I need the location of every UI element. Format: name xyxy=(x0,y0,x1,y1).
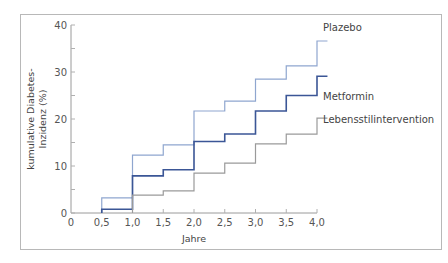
x-tick-label: 0,5 xyxy=(94,217,110,228)
y-tick-label: 10 xyxy=(54,161,67,172)
series-labels: PlazeboMetforminLebensstilintervention xyxy=(323,22,434,125)
series-lines xyxy=(102,41,328,213)
y-tick-label: 40 xyxy=(54,20,67,31)
x-tick-label: 2,5 xyxy=(217,217,233,228)
series-line-plazebo xyxy=(102,41,328,213)
y-axis-title: kumulative Diabetes- Inzidenz (%) xyxy=(25,68,48,169)
series-line-metformin xyxy=(102,76,328,213)
y-tick-label: 30 xyxy=(54,67,67,78)
x-tick-label: 1,0 xyxy=(125,217,141,228)
y-tick-label: 20 xyxy=(54,114,67,125)
x-tick-label: 2,0 xyxy=(186,217,202,228)
x-tick-label: 1,5 xyxy=(155,217,171,228)
step-chart: 01020304000,51,01,52,02,53,03,54,0 Plaze… xyxy=(0,0,448,263)
y-axis-title-line-1: kumulative Diabetes- xyxy=(25,68,36,169)
axes: 01020304000,51,01,52,02,53,03,54,0 xyxy=(54,20,325,229)
series-label-plazebo: Plazebo xyxy=(323,22,362,33)
x-tick-label: 0 xyxy=(68,217,74,228)
x-tick-label: 3,5 xyxy=(278,217,294,228)
x-tick-label: 3,0 xyxy=(248,217,264,228)
x-axis-title: Jahre xyxy=(181,233,206,244)
series-label-lebensstilintervention: Lebensstilintervention xyxy=(323,114,434,125)
x-tick-label: 4,0 xyxy=(309,217,325,228)
series-label-metformin: Metformin xyxy=(323,91,374,102)
y-tick-label: 0 xyxy=(61,208,67,219)
series-line-lebensstilintervention xyxy=(133,118,328,213)
y-axis-title-line-2: Inzidenz (%) xyxy=(37,90,48,149)
